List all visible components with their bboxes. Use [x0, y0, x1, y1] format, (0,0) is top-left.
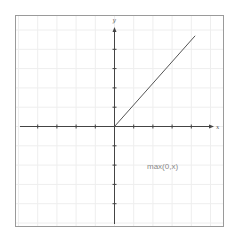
function-annotation: max(0,x) [147, 162, 178, 171]
relu-chart: x y max(0,x) [0, 0, 238, 239]
y-axis-label: y [112, 16, 117, 24]
